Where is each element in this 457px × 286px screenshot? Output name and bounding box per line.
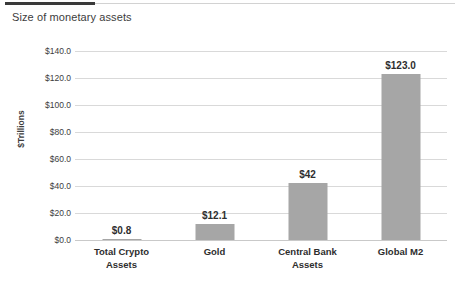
bar[interactable]: [381, 74, 420, 240]
bar[interactable]: [288, 183, 327, 240]
y-axis-tick-label: $140.0: [45, 46, 71, 56]
bar-slot: $12.1: [168, 51, 261, 240]
bar-slot: $123.0: [354, 51, 447, 240]
bar-slot: $42: [261, 51, 354, 240]
y-axis-tick-label: $100.0: [45, 100, 71, 110]
bar-slot: $0.8: [75, 51, 168, 240]
x-axis-label-line: Global M2: [354, 245, 447, 258]
x-axis-category-label: Total CryptoAssets: [75, 245, 168, 271]
chart-bars: $0.8$12.1$42$123.0: [75, 51, 447, 240]
y-axis-tick-label: $60.0: [50, 154, 71, 164]
x-axis-category-labels: Total CryptoAssetsGoldCentral BankAssets…: [75, 245, 447, 285]
bar-value-label: $42: [299, 169, 316, 180]
header-rule-dark: [5, 2, 95, 5]
y-axis-tick-label: $0.0: [54, 235, 71, 245]
x-axis-category-label: Global M2: [354, 245, 447, 258]
bar-value-label: $123.0: [385, 60, 416, 71]
x-axis-category-label: Central BankAssets: [261, 245, 354, 271]
bar[interactable]: [195, 224, 234, 240]
y-axis-tick-label: $80.0: [50, 127, 71, 137]
y-axis-title: $Trillions: [16, 99, 26, 159]
y-axis-tick-label: $20.0: [50, 208, 71, 218]
y-axis-tick-label: $40.0: [50, 181, 71, 191]
gridline: [75, 240, 447, 241]
x-axis-label-line: Central Bank: [261, 245, 354, 258]
y-axis-tick-labels: $0.0$20.0$40.0$60.0$80.0$100.0$120.0$140…: [28, 51, 71, 240]
chart-title: Size of monetary assets: [12, 11, 132, 23]
y-axis-tick-label: $120.0: [45, 73, 71, 83]
bar-value-label: $0.8: [112, 225, 131, 236]
x-axis-category-label: Gold: [168, 245, 261, 258]
x-axis-label-line: Assets: [75, 258, 168, 271]
bar[interactable]: [102, 239, 141, 241]
x-axis-label-line: Total Crypto: [75, 245, 168, 258]
header-rule-light: [95, 3, 455, 4]
x-axis-label-line: Assets: [261, 258, 354, 271]
x-axis-label-line: Gold: [168, 245, 261, 258]
bar-value-label: $12.1: [202, 210, 227, 221]
